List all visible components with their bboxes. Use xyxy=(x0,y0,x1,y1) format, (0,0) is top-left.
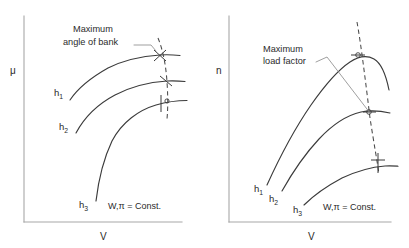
turn-performance-figure: Maximum angle of bank h1 h2 h3 W,π = Con… xyxy=(0,0,409,248)
curve-label-h1: h1 xyxy=(54,87,63,100)
annotation-line2: angle of bank xyxy=(63,37,119,47)
curve-label-h1: h1 xyxy=(254,183,263,196)
curve-label-h3: h3 xyxy=(79,199,88,212)
condition-note: W,π = Const. xyxy=(108,201,161,211)
annotation-line2: load factor xyxy=(263,56,306,66)
y-axis-label: μ xyxy=(10,65,16,76)
curve-h2 xyxy=(76,81,185,133)
curve-label-h2: h2 xyxy=(59,121,68,134)
curve-h1 xyxy=(70,55,180,100)
annotation-line1: Maximum xyxy=(263,44,303,54)
curve-h3 xyxy=(96,101,187,202)
annotation-line1: Maximum xyxy=(73,24,113,34)
panel-load-factor: Maximum load factor h1 h2 h3 W,π = Const… xyxy=(205,0,409,248)
curve-h2 xyxy=(282,111,390,191)
y-axis-label: n xyxy=(216,65,222,76)
locus-tick-h3 xyxy=(371,153,385,173)
panel-left-plot: Maximum angle of bank h1 h2 h3 W,π = Con… xyxy=(0,0,204,248)
panel-bank-angle: Maximum angle of bank h1 h2 h3 W,π = Con… xyxy=(0,0,204,248)
annotation-leader-line xyxy=(134,45,156,51)
max-load-factor-locus xyxy=(357,22,379,174)
curve-h3 xyxy=(304,166,398,205)
panel-right-plot: Maximum load factor h1 h2 h3 W,π = Const… xyxy=(205,0,409,248)
curve-label-h2: h2 xyxy=(269,193,278,206)
curve-h1 xyxy=(267,57,389,185)
x-axis-label: V xyxy=(100,231,107,242)
x-axis-label: V xyxy=(308,231,315,242)
annotation-leader-line xyxy=(316,57,370,113)
condition-note: W,π = Const. xyxy=(323,202,376,212)
curve-label-h3: h3 xyxy=(293,204,302,217)
